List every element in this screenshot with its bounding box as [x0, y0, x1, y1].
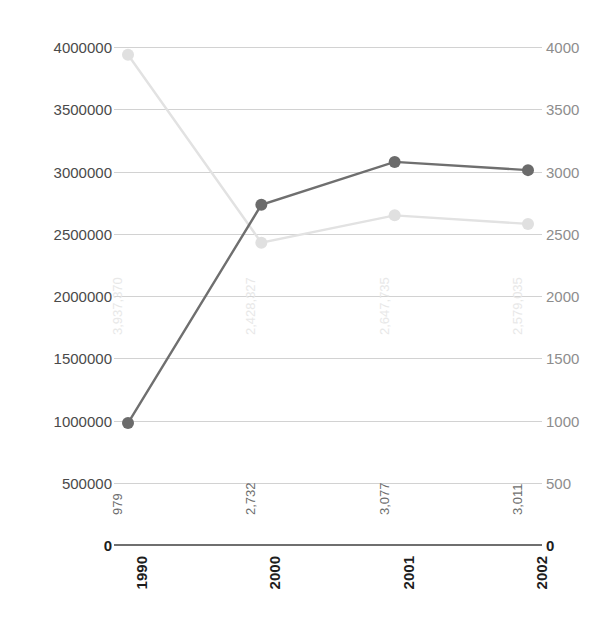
tick-mark	[528, 234, 542, 235]
category-axis: 1990200020012002	[128, 556, 528, 636]
plot-area: 3,937,3702,428,3272,647,7352,579,0359792…	[128, 47, 528, 545]
left-axis: 0500000100000015000002000000250000030000…	[0, 47, 112, 545]
series-line-light-series	[128, 55, 528, 243]
data-point-marker[interactable]	[122, 49, 134, 61]
left-axis-tick-label: 2500000	[54, 226, 112, 241]
left-axis-tick-label: 4000000	[54, 40, 112, 55]
tick-mark	[114, 483, 128, 484]
data-point-marker[interactable]	[522, 218, 534, 230]
category-label-2001: 2001	[401, 556, 416, 589]
tick-mark	[114, 234, 128, 235]
tick-mark	[114, 544, 128, 546]
right-axis-tick-label: 2500	[546, 226, 579, 241]
value-label-light-series: 2,579,035	[511, 277, 524, 335]
tick-mark	[528, 296, 542, 297]
left-axis-tick-label: 3000000	[54, 164, 112, 179]
left-axis-tick-label: 1000000	[54, 413, 112, 428]
left-axis-tick-label: 0	[104, 538, 112, 553]
data-point-marker[interactable]	[255, 199, 267, 211]
left-axis-tick-label: 500000	[62, 475, 112, 490]
left-axis-tick-label: 2000000	[54, 289, 112, 304]
category-label-2000: 2000	[267, 556, 282, 589]
right-axis-tick-label: 1500	[546, 351, 579, 366]
right-axis-tick-label: 0	[546, 538, 554, 553]
tick-mark	[528, 109, 542, 110]
value-label-dark-series: 979	[111, 493, 124, 515]
right-axis: 05001000150020002500300035004000	[546, 47, 614, 545]
value-label-dark-series: 2,732	[244, 482, 257, 515]
data-point-marker[interactable]	[522, 164, 534, 176]
category-label-2002: 2002	[534, 556, 549, 589]
tick-mark	[114, 172, 128, 173]
tick-mark	[528, 421, 542, 422]
tick-mark	[528, 544, 542, 546]
tick-mark	[114, 109, 128, 110]
value-label-light-series: 3,937,370	[111, 277, 124, 335]
value-label-light-series: 2,647,735	[378, 277, 391, 335]
series-line-dark-series	[128, 162, 528, 423]
right-axis-tick-label: 4000	[546, 40, 579, 55]
tick-mark	[528, 358, 542, 359]
tick-mark	[114, 47, 128, 48]
series-lines	[128, 47, 528, 545]
chart-container: 0500000100000015000002000000250000030000…	[0, 0, 615, 641]
value-label-light-series: 2,428,327	[244, 277, 257, 335]
right-axis-tick-label: 1000	[546, 413, 579, 428]
left-axis-tick-label: 3500000	[54, 102, 112, 117]
right-axis-tick-label: 2000	[546, 289, 579, 304]
data-point-marker[interactable]	[122, 417, 134, 429]
right-axis-tick-label: 500	[546, 475, 571, 490]
data-point-marker[interactable]	[389, 156, 401, 168]
tick-mark	[528, 483, 542, 484]
data-point-marker[interactable]	[389, 209, 401, 221]
right-axis-tick-label: 3500	[546, 102, 579, 117]
right-axis-tick-label: 3000	[546, 164, 579, 179]
tick-mark	[528, 47, 542, 48]
value-label-dark-series: 3,077	[378, 482, 391, 515]
data-point-marker[interactable]	[255, 237, 267, 249]
category-label-1990: 1990	[134, 556, 149, 589]
tick-mark	[114, 358, 128, 359]
value-label-dark-series: 3,011	[511, 483, 524, 515]
left-axis-tick-label: 1500000	[54, 351, 112, 366]
